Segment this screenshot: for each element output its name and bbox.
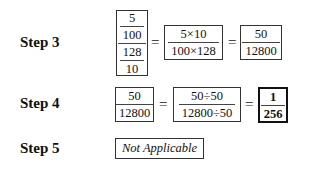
- denominator-value: 100: [120, 28, 145, 42]
- fraction: 50÷50 12800÷50: [179, 89, 236, 120]
- numerator-value: 50÷50: [188, 89, 226, 103]
- numerator-value: 50: [125, 89, 144, 103]
- denominator-value: 12800÷50: [179, 106, 236, 120]
- complex-fraction-denominator: 128 10: [120, 45, 145, 76]
- complex-fraction-numerator: 5 100: [120, 11, 145, 42]
- fraction-bar: [242, 42, 279, 43]
- fraction: 50 12800: [116, 89, 153, 120]
- fraction-bar: [261, 105, 286, 106]
- numerator-value: 5: [126, 11, 138, 25]
- step-4-answer-box: 1 256: [258, 87, 288, 123]
- fraction-bar: [120, 26, 145, 27]
- numerator-value: 50: [252, 27, 271, 41]
- numerator-value: 128: [120, 45, 145, 59]
- fraction-bar: [120, 60, 145, 61]
- numerator-value: 5×10: [178, 27, 210, 41]
- equals-sign: =: [151, 34, 159, 51]
- step-5-box: Not Applicable: [115, 138, 204, 159]
- fraction-bar: [168, 42, 219, 43]
- step-5-label: Step 5: [20, 140, 60, 157]
- fraction: 1 256: [261, 90, 286, 121]
- denominator-value: 100×128: [168, 44, 219, 58]
- step-3-label: Step 3: [20, 34, 60, 51]
- step-3-fraction-3-box: 50 12800: [240, 25, 282, 60]
- step-4-fraction-2-box: 50÷50 12800÷50: [173, 87, 241, 122]
- step-3-fraction-2-box: 5×10 100×128: [164, 25, 223, 60]
- fraction: 50 12800: [242, 27, 279, 58]
- fraction: 5×10 100×128: [168, 27, 219, 58]
- denominator-value: 12800: [116, 106, 153, 120]
- equals-sign: =: [245, 96, 253, 113]
- equals-sign: =: [159, 96, 167, 113]
- step-4-fraction-1-box: 50 12800: [115, 87, 154, 122]
- fraction-bar: [179, 104, 236, 105]
- denominator-value: 12800: [242, 44, 279, 58]
- not-applicable-text: Not Applicable: [122, 141, 197, 156]
- fraction-bar: [116, 104, 153, 105]
- denominator-value: 256: [261, 107, 286, 121]
- step-4-label: Step 4: [20, 95, 60, 112]
- equals-sign: =: [228, 34, 236, 51]
- main-fraction-bar: [118, 43, 146, 44]
- numerator-value: 1: [267, 90, 279, 104]
- denominator-value: 10: [123, 62, 142, 76]
- step-3-complex-fraction-box: 5 100 128 10: [116, 10, 148, 76]
